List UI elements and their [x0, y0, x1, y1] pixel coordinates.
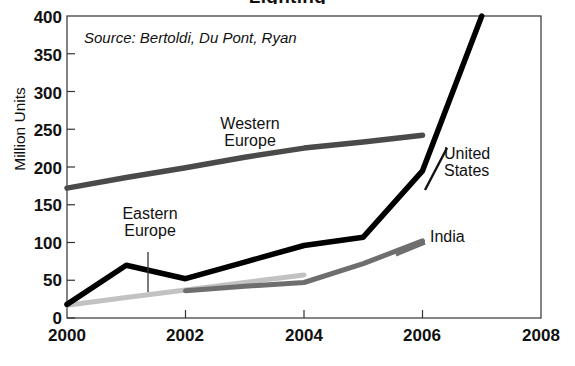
label-india: India [430, 229, 465, 246]
label-united-states: United States [444, 146, 490, 180]
plot-area [0, 0, 575, 366]
chart-figure: Lighting Million Units 0 50 100 150 200 … [0, 0, 575, 366]
label-western-europe: Western Europe [195, 116, 305, 150]
series-line-united-states [67, 16, 482, 304]
source-annotation: Source: Bertoldi, Du Pont, Ryan [84, 30, 297, 46]
label-eastern-europe: Eastern Europe [106, 206, 194, 240]
x-tick-marks [186, 310, 423, 318]
